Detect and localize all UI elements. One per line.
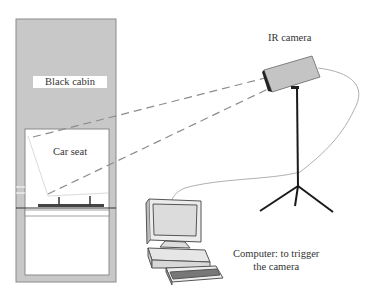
- car-seat-label: Car seat: [53, 146, 87, 157]
- black-cabin-label: Black cabin: [33, 76, 107, 88]
- camera-cable: [170, 68, 359, 205]
- tripod: [260, 88, 333, 212]
- computer-label-line2: the camera: [233, 260, 319, 273]
- setup-diagram: Black cabin Car seat IR camera Computer:…: [0, 0, 369, 293]
- ir-camera: [262, 56, 320, 92]
- computer-label-line1: Computer: to trigger: [233, 247, 319, 260]
- ir-camera-label: IR camera: [268, 32, 311, 43]
- computer-label: Computer: to trigger the camera: [233, 247, 319, 273]
- computer: [146, 199, 223, 285]
